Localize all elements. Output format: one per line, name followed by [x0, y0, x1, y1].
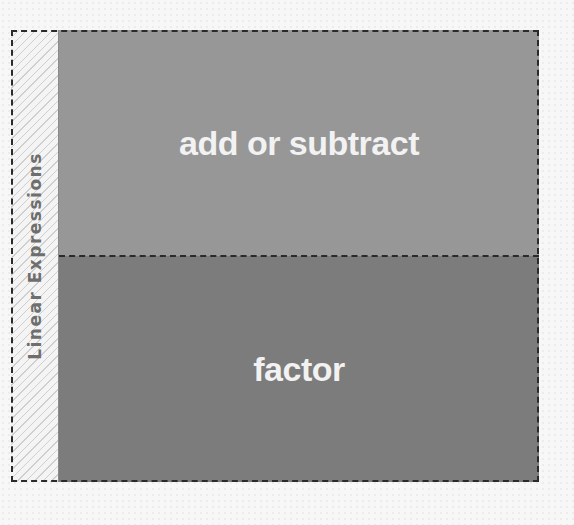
diagram-frame: [11, 30, 539, 482]
